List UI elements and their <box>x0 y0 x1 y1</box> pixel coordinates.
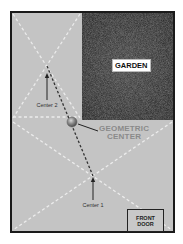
geometric-center-marker-icon <box>67 117 77 127</box>
floor-plan-diagram: GARDEN Center 2 Center 1 GEOMETRIC CENTE… <box>0 0 183 244</box>
center-1-label: Center 1 <box>82 202 103 208</box>
front-door-region: FRONT DOOR <box>127 209 164 232</box>
geometric-center-label: GEOMETRIC CENTER <box>99 125 149 141</box>
garden-label: GARDEN <box>112 59 151 72</box>
geometric-center-label-line2: CENTER <box>99 133 149 141</box>
center-2-label: Center 2 <box>36 102 57 108</box>
front-door-label-line2: DOOR <box>137 221 154 227</box>
